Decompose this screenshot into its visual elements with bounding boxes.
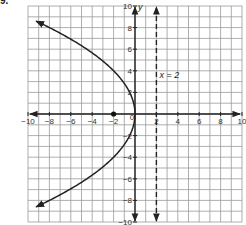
y-tick-label: −10 [118, 218, 132, 225]
y-tick-label: 4 [128, 67, 133, 76]
x-tick-label: 6 [197, 117, 202, 126]
y-tick-label: 8 [128, 24, 133, 33]
x-tick-label: −4 [88, 117, 98, 126]
x-tick-label: −8 [45, 117, 55, 126]
y-axis-label: y [137, 2, 143, 12]
x-tick-label: 8 [218, 117, 223, 126]
y-tick-label: −8 [123, 196, 133, 205]
x-tick-label: −6 [66, 117, 76, 126]
directrix-label: x = 2 [159, 70, 180, 80]
x-tick-label: 10 [238, 117, 246, 126]
x-tick-label: −2 [109, 117, 119, 126]
origin-label: 0 [130, 113, 135, 122]
x-tick-label: 4 [176, 117, 181, 126]
y-tick-label: 10 [123, 2, 132, 11]
y-tick-label: −6 [123, 175, 133, 184]
focus-point [111, 111, 116, 116]
y-tick-label: 6 [128, 45, 133, 54]
y-tick-label: −4 [123, 153, 133, 162]
x-tick-label: −10 [21, 117, 35, 126]
coordinate-plane: −10−8−6−4−2246810−10−8−6−4−2246810y x = … [0, 0, 246, 225]
